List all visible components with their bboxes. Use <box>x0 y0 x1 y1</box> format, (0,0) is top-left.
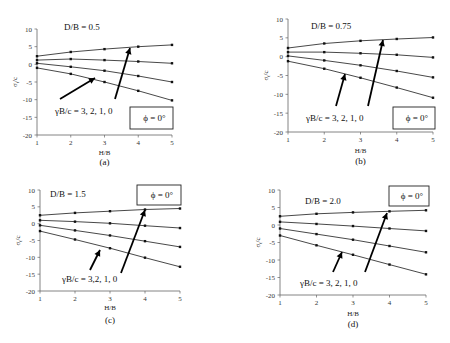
phi-annotation-text: ϕ = 0° <box>151 190 174 200</box>
data-point-marker <box>279 234 281 236</box>
data-point-marker <box>315 233 317 235</box>
line-chart: 1050-5-10-15-2012345σt/cH/B(b)D/B = 0.75… <box>225 0 450 172</box>
data-point-marker <box>287 60 289 62</box>
series-line <box>288 61 433 97</box>
x-axis-title: H/B <box>104 304 116 312</box>
chart-panel-c: 1050-5-10-15-2012345σt/cH/B(c)D/B = 1.5ϕ… <box>0 170 225 342</box>
depth-ratio-label: D/B = 0.75 <box>311 21 352 31</box>
y-tick-label: 5 <box>29 43 33 51</box>
depth-ratio-label: D/B = 0.5 <box>64 22 100 32</box>
data-point-marker <box>359 52 361 54</box>
x-tick-label: 1 <box>286 136 290 144</box>
data-point-marker <box>315 244 317 246</box>
data-point-marker <box>103 81 105 83</box>
data-point-marker <box>74 238 76 240</box>
data-point-marker <box>388 245 390 247</box>
data-point-marker <box>103 48 105 50</box>
data-point-marker <box>39 224 41 226</box>
y-tick-label: 0 <box>280 53 284 61</box>
y-axis-title: σt/c <box>11 77 20 87</box>
data-point-marker <box>396 86 398 88</box>
y-tick-label: -10 <box>26 254 36 262</box>
data-point-marker <box>388 263 390 265</box>
data-point-marker <box>137 90 139 92</box>
line-chart: 1050-5-10-15-2012345σt/cH/B(d)D/B = 2.0ϕ… <box>225 170 450 342</box>
data-point-marker <box>432 97 434 99</box>
chart-panel-d: 1050-5-10-15-2012345σt/cH/B(d)D/B = 2.0ϕ… <box>225 170 450 342</box>
data-point-marker <box>74 229 76 231</box>
x-tick-label: 5 <box>170 139 174 147</box>
y-axis-title: σt/c <box>14 235 23 245</box>
data-point-marker <box>109 234 111 236</box>
y-tick-label: -5 <box>26 79 32 87</box>
data-point-marker <box>425 251 427 253</box>
data-point-marker <box>179 246 181 248</box>
y-tick-label: -15 <box>26 271 36 279</box>
y-tick-label: -20 <box>266 292 276 300</box>
data-point-marker <box>323 51 325 53</box>
data-point-marker <box>70 51 72 53</box>
data-point-marker <box>103 69 105 71</box>
data-point-marker <box>315 223 317 225</box>
x-tick-label: 5 <box>178 295 182 303</box>
data-point-marker <box>323 59 325 61</box>
x-tick-label: 2 <box>73 295 77 303</box>
x-tick-label: 5 <box>431 136 435 144</box>
x-tick-label: 1 <box>35 139 39 147</box>
x-tick-label: 5 <box>424 299 428 307</box>
data-point-marker <box>171 99 173 101</box>
panel-caption: (a) <box>100 157 110 167</box>
y-axis-title: σt/c <box>262 70 271 80</box>
data-point-marker <box>144 240 146 242</box>
data-point-marker <box>352 211 354 213</box>
data-point-marker <box>179 227 181 229</box>
y-tick-label: -5 <box>277 72 283 80</box>
phi-annotation-text: ϕ = 0° <box>406 113 429 123</box>
data-point-marker <box>432 56 434 58</box>
phi-annotation-text: ϕ = 0° <box>143 113 166 123</box>
data-point-marker <box>388 227 390 229</box>
data-point-marker <box>359 64 361 66</box>
data-point-marker <box>279 215 281 217</box>
data-point-marker <box>287 55 289 57</box>
x-tick-label: 3 <box>103 139 107 147</box>
y-tick-label: -15 <box>266 274 276 282</box>
series-annotation-label: γB/c = 3, 2, 1, 0 <box>54 106 113 116</box>
chart-panel-b: 1050-5-10-15-2012345σt/cH/B(b)D/B = 0.75… <box>225 0 450 172</box>
data-point-marker <box>39 230 41 232</box>
arrowhead-icon <box>379 40 385 47</box>
data-point-marker <box>425 230 427 232</box>
y-tick-label: 5 <box>280 34 284 42</box>
line-chart: 1050-5-10-15-2012345σt/cH/B(c)D/B = 1.5ϕ… <box>0 170 225 342</box>
x-tick-label: 2 <box>315 299 319 307</box>
data-point-marker <box>39 214 41 216</box>
panel-caption: (c) <box>105 315 115 325</box>
y-tick-label: -15 <box>274 110 284 118</box>
data-point-marker <box>109 247 111 249</box>
x-axis-title: H/B <box>99 149 111 157</box>
data-point-marker <box>144 224 146 226</box>
data-point-marker <box>396 38 398 40</box>
data-point-marker <box>109 210 111 212</box>
y-tick-label: -20 <box>23 132 33 140</box>
y-axis-title: σt/c <box>254 237 263 247</box>
data-point-marker <box>323 68 325 70</box>
series-line <box>37 63 172 82</box>
x-tick-label: 2 <box>323 136 327 144</box>
data-point-marker <box>425 273 427 275</box>
data-point-marker <box>352 239 354 241</box>
series-line <box>288 38 433 49</box>
data-point-marker <box>171 62 173 64</box>
y-tick-label: 10 <box>28 187 36 195</box>
series-line <box>37 68 172 101</box>
x-tick-label: 3 <box>108 295 112 303</box>
data-point-marker <box>137 60 139 62</box>
data-point-marker <box>74 220 76 222</box>
data-point-marker <box>352 254 354 256</box>
data-point-marker <box>287 51 289 53</box>
y-tick-label: 0 <box>29 61 33 69</box>
series-line <box>37 45 172 56</box>
data-point-marker <box>171 81 173 83</box>
panel-caption: (d) <box>348 319 359 329</box>
data-point-marker <box>352 225 354 227</box>
